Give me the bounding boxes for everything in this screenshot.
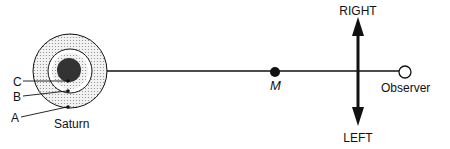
observer-marker [399,66,411,78]
label-b: B [13,90,21,104]
label-c: C [13,75,22,89]
label-a: A [11,111,19,125]
leader-a [21,107,67,117]
label-saturn: Saturn [54,117,89,131]
arrow-up-icon [352,17,364,36]
saturn-system [33,34,107,108]
saturn-core [57,58,81,82]
label-right: RIGHT [339,4,377,18]
label-left: LEFT [343,131,373,145]
diagram-canvas: C B A Saturn M RIGHT LEFT Observer [0,0,450,149]
label-moon: M [270,78,281,93]
label-observer: Observer [381,81,430,95]
moon-marker [270,67,280,77]
arrow-down-icon [352,107,364,126]
